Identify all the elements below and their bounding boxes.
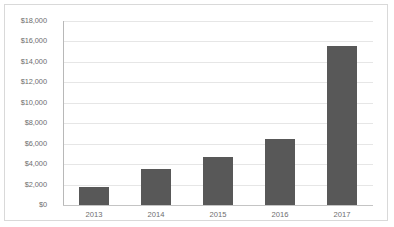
x-axis-tick-label: 2014 (125, 210, 187, 219)
bar-slot (311, 21, 373, 205)
bar-slot (187, 21, 249, 205)
x-axis-tick-label: 2013 (63, 210, 125, 219)
y-axis-tick-label: $4,000 (0, 159, 47, 168)
bar-2014[interactable] (141, 169, 171, 205)
y-axis-tick-label: $2,000 (0, 180, 47, 189)
x-axis-tick-label: 2016 (249, 210, 311, 219)
gridline (63, 205, 373, 206)
y-axis-tick-label: $0 (0, 200, 47, 209)
y-axis-tick-label: $12,000 (0, 77, 47, 86)
bar-2017[interactable] (327, 46, 357, 205)
y-axis-tick-label: $6,000 (0, 139, 47, 148)
y-axis-tick-label: $14,000 (0, 57, 47, 66)
y-axis-tick-label: $18,000 (0, 16, 47, 25)
bar-slot (125, 21, 187, 205)
chart-container: $18,000$16,000$14,000$12,000$10,000$8,00… (4, 4, 388, 221)
y-axis-tick-label: $16,000 (0, 36, 47, 45)
bar-2016[interactable] (265, 139, 295, 205)
y-axis-tick-label: $8,000 (0, 118, 47, 127)
bar-slot (249, 21, 311, 205)
x-axis-tick-label: 2017 (311, 210, 373, 219)
bar-series (63, 21, 373, 205)
y-axis-tick-label: $10,000 (0, 98, 47, 107)
bar-slot (63, 21, 125, 205)
bar-2013[interactable] (79, 187, 109, 205)
bar-2015[interactable] (203, 157, 233, 205)
x-axis-tick-label: 2015 (187, 210, 249, 219)
